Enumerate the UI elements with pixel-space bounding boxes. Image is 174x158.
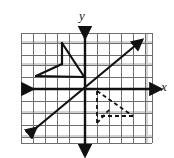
coordinate-plane-svg	[0, 0, 174, 158]
x-axis-label: x	[161, 80, 167, 93]
y-axis-label: y	[79, 9, 85, 22]
solid-segment-horizontal	[36, 76, 85, 77]
graph-figure: y x	[0, 0, 174, 158]
